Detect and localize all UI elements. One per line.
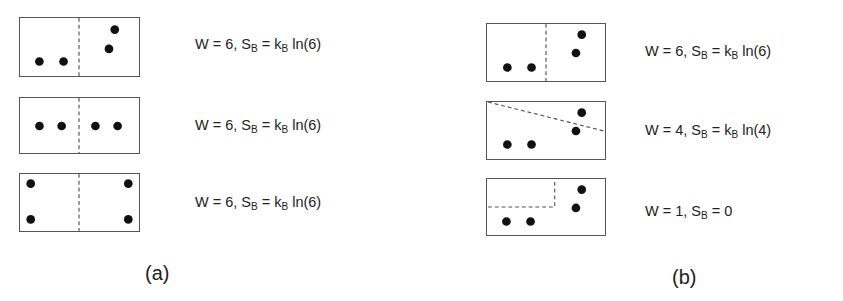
equation-part-w-prefix: W = — [645, 203, 675, 219]
particle-dot — [124, 215, 133, 224]
particle-dot — [502, 217, 511, 226]
panel-a-box-3 — [19, 173, 140, 232]
particle-dot — [113, 122, 122, 131]
particle-dot — [26, 179, 35, 188]
equation-part-s-sym: , S — [233, 36, 251, 52]
equation-part-rhs: ln(4) — [738, 122, 771, 138]
equation-part-s-sub: B — [251, 201, 258, 212]
particle-dot — [503, 63, 512, 72]
particle-dot — [526, 217, 535, 226]
particle-dot — [572, 204, 581, 213]
particle-dot — [527, 63, 536, 72]
equation-a-3: W = 6, SB = kB ln(6) — [195, 194, 321, 212]
panel-a-box-1 — [19, 17, 140, 77]
equation-part-w-prefix: W = — [195, 194, 225, 210]
equation-a-2: W = 6, SB = kB ln(6) — [195, 117, 321, 135]
particle-dot — [527, 140, 536, 149]
particle-dot — [577, 185, 586, 194]
equation-part-s-sub: B — [251, 124, 258, 135]
equation-part-eq: = 0 — [708, 203, 733, 219]
equation-b-3: W = 1, SB = 0 — [645, 203, 732, 221]
equation-part-rhs: ln(6) — [288, 36, 321, 52]
panel-b-box-3 — [486, 178, 606, 236]
equation-part-s-sym: , S — [683, 43, 701, 59]
equation-part-eq: = k — [258, 194, 282, 210]
particle-dot — [577, 108, 586, 117]
equation-part-s-sym: , S — [683, 203, 701, 219]
equation-part-s-sym: , S — [233, 194, 251, 210]
divider-corner — [488, 179, 555, 207]
equation-part-eq: = k — [258, 36, 282, 52]
equation-part-s-sub: B — [701, 129, 708, 140]
divider-diagonal — [488, 102, 604, 131]
equation-part-rhs: ln(6) — [288, 117, 321, 133]
particle-dot — [59, 57, 68, 66]
equation-b-1: W = 6, SB = kB ln(6) — [645, 43, 771, 61]
equation-part-rhs: ln(6) — [738, 43, 771, 59]
particle-dot — [105, 45, 114, 54]
equation-part-w-prefix: W = — [195, 117, 225, 133]
particle-dot — [91, 122, 100, 131]
equation-part-w-prefix: W = — [195, 36, 225, 52]
particle-dot — [572, 127, 581, 136]
panel-b-box-2 — [486, 101, 606, 160]
particle-dot — [57, 122, 66, 131]
equation-part-s-sub: B — [251, 43, 258, 54]
panel-a-box-2 — [19, 97, 140, 154]
equation-part-w-prefix: W = — [645, 122, 675, 138]
particle-dot — [124, 179, 133, 188]
equation-part-eq: = k — [708, 43, 732, 59]
particle-dot — [572, 49, 581, 58]
equation-part-s-sym: , S — [683, 122, 701, 138]
panel-caption-a: (a) — [145, 262, 169, 285]
panel-caption-b: (b) — [672, 266, 696, 289]
equation-part-eq: = k — [258, 117, 282, 133]
particle-dot — [35, 57, 44, 66]
equation-part-s-sym: , S — [233, 117, 251, 133]
equation-part-s-sub: B — [701, 210, 708, 221]
panel-b-box-1 — [486, 23, 606, 82]
particle-dot — [35, 122, 44, 131]
particle-dot — [503, 140, 512, 149]
particle-dot — [26, 215, 35, 224]
equation-part-eq: = k — [708, 122, 732, 138]
equation-part-w-prefix: W = — [645, 43, 675, 59]
equation-b-2: W = 4, SB = kB ln(4) — [645, 122, 771, 140]
equation-a-1: W = 6, SB = kB ln(6) — [195, 36, 321, 54]
equation-part-s-sub: B — [701, 50, 708, 61]
particle-dot — [577, 30, 586, 39]
equation-part-rhs: ln(6) — [288, 194, 321, 210]
particle-dot — [110, 25, 119, 34]
